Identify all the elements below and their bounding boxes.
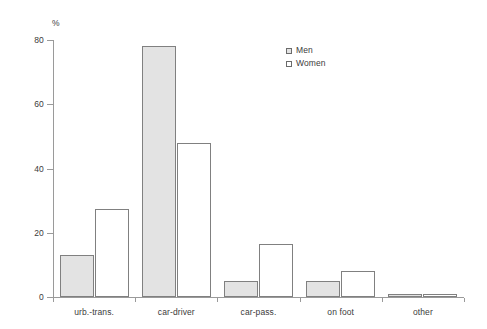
y-axis-tick-label: 0 [14, 293, 44, 302]
x-axis-label-other: other [363, 307, 483, 317]
bar-men-urbtrans [60, 255, 94, 297]
bar-women-other [423, 294, 457, 297]
x-axis-line [53, 297, 464, 298]
bar-men-other [388, 294, 422, 297]
x-axis-tick [300, 298, 301, 302]
bar-men-carpass [224, 281, 258, 297]
x-axis-tick [217, 298, 218, 302]
y-axis-tick-label: 60 [14, 100, 44, 109]
legend-item-men[interactable]: Men [286, 44, 326, 57]
x-axis-tick [53, 298, 54, 302]
x-axis-tick [135, 298, 136, 302]
legend-label: Men [296, 46, 313, 55]
legend-swatch-icon [286, 61, 292, 67]
y-axis-unit-label: % [52, 19, 60, 28]
bar-men-cardriver [142, 46, 176, 297]
bar-women-urbtrans [95, 209, 129, 297]
y-axis-tick-label: 40 [14, 165, 44, 174]
bar-women-carpass [259, 244, 293, 297]
bar-chart: % 020406080 urb.-trans.car-drivercar-pas… [0, 0, 487, 329]
bar-men-onfoot [306, 281, 340, 297]
y-axis-tick-label: 20 [14, 229, 44, 238]
plot-area [53, 40, 464, 297]
y-axis-tick-label: 80 [14, 36, 44, 45]
legend-item-women[interactable]: Women [286, 57, 326, 70]
x-axis-tick [464, 298, 465, 302]
legend-swatch-icon [286, 48, 292, 54]
x-axis-tick [382, 298, 383, 302]
chart-legend: MenWomen [286, 44, 326, 70]
legend-label: Women [296, 59, 326, 68]
bar-women-cardriver [177, 143, 211, 297]
bar-women-onfoot [341, 271, 375, 297]
